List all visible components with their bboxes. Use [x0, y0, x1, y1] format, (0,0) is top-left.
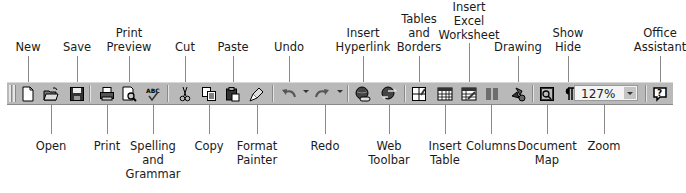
copy-icon	[201, 86, 217, 102]
leader-line	[491, 104, 492, 134]
leader-line	[604, 104, 605, 134]
spell-check-icon: ABC	[145, 86, 161, 102]
open-button[interactable]	[42, 85, 60, 102]
label-zoom: Zoom	[587, 139, 620, 153]
save-button[interactable]	[68, 85, 86, 102]
redo-dropdown-arrow[interactable]	[337, 90, 343, 93]
undo-button[interactable]	[280, 85, 298, 102]
label-office-assistant: OfficeAssistant	[634, 26, 686, 54]
document-map-icon	[539, 86, 555, 102]
insert-hyperlink-button[interactable]	[354, 85, 372, 102]
toolbar-separator	[89, 85, 91, 102]
columns-button[interactable]	[483, 85, 501, 102]
spelling-grammar-button[interactable]: ABC	[144, 85, 162, 102]
leader-line	[568, 56, 569, 84]
open-folder-icon	[43, 86, 59, 102]
undo-arrow-icon	[281, 86, 297, 102]
columns-icon	[484, 86, 500, 102]
insert-excel-button[interactable]	[460, 85, 478, 102]
label-insert-table: InsertTable	[429, 139, 462, 167]
document-map-button[interactable]	[538, 85, 556, 102]
insert-table-button[interactable]	[436, 85, 454, 102]
label-open: Open	[36, 139, 67, 153]
paste-button[interactable]	[224, 85, 242, 102]
printer-icon	[99, 86, 115, 102]
leader-line	[325, 104, 326, 134]
toolbar-separator	[645, 85, 647, 102]
toolbar-grip[interactable]	[13, 85, 16, 102]
paintbrush-icon	[249, 86, 265, 102]
label-drawing: Drawing	[494, 40, 542, 54]
leader-line	[469, 43, 470, 84]
svg-text:?: ?	[657, 88, 662, 98]
leader-line	[518, 56, 519, 84]
toolbar-separator	[532, 85, 534, 102]
leader-line	[77, 56, 78, 84]
label-document-map: DocumentMap	[517, 139, 577, 167]
toolbar-grip[interactable]	[9, 85, 12, 102]
leader-line	[129, 56, 130, 84]
new-button[interactable]	[19, 85, 37, 102]
label-print: Print	[94, 139, 120, 153]
leader-line	[185, 56, 186, 84]
print-preview-button[interactable]	[120, 85, 138, 102]
leader-line	[153, 104, 154, 134]
zoom-dropdown-arrow[interactable]	[624, 87, 636, 99]
toolbar-separator	[347, 85, 349, 102]
label-print-preview: PrintPreview	[107, 26, 152, 54]
label-redo: Redo	[311, 139, 340, 153]
drawing-shapes-icon	[510, 86, 526, 102]
undo-dropdown-arrow[interactable]	[303, 90, 309, 93]
standard-toolbar: ABC	[7, 82, 673, 105]
leader-line	[660, 56, 661, 84]
scissors-icon	[177, 86, 193, 102]
office-assistant-button[interactable]: ?	[651, 85, 669, 102]
leader-line	[209, 104, 210, 134]
table-pencil-icon	[411, 86, 427, 102]
redo-button[interactable]	[313, 85, 331, 102]
globe-arrows-icon	[381, 86, 397, 102]
label-format-painter: FormatPainter	[237, 139, 278, 167]
toolbar-separator	[404, 85, 406, 102]
leader-line	[107, 104, 108, 134]
cut-button[interactable]	[176, 85, 194, 102]
leader-line	[419, 56, 420, 84]
label-tables-borders: TablesandBorders	[397, 12, 442, 54]
spreadsheet-icon	[461, 86, 477, 102]
globe-link-icon	[355, 86, 371, 102]
drawing-button[interactable]	[509, 85, 527, 102]
zoom-value: 127%	[581, 86, 615, 102]
label-undo: Undo	[274, 40, 304, 54]
leader-line	[257, 104, 258, 134]
print-button[interactable]	[98, 85, 116, 102]
label-paste: Paste	[217, 40, 248, 54]
redo-arrow-icon	[314, 86, 330, 102]
help-question-icon: ?	[652, 86, 668, 102]
label-new: New	[15, 40, 40, 54]
leader-line	[445, 104, 446, 134]
toolbar-separator	[272, 85, 274, 102]
leader-line	[389, 104, 390, 134]
table-grid-icon	[437, 86, 453, 102]
leader-line	[289, 56, 290, 84]
leader-line	[51, 104, 52, 134]
label-cut: Cut	[175, 40, 195, 54]
format-painter-button[interactable]	[248, 85, 266, 102]
label-web-toolbar: WebToolbar	[368, 139, 409, 167]
label-insert-excel: InsertExcelWorksheet	[438, 0, 499, 42]
print-preview-icon	[121, 86, 137, 102]
clipboard-icon	[225, 86, 241, 102]
leader-line	[233, 56, 234, 84]
new-document-icon	[20, 86, 36, 102]
web-toolbar-button[interactable]	[380, 85, 398, 102]
label-show-hide: ShowHide	[552, 26, 583, 54]
zoom-dropdown[interactable]: 127%	[574, 85, 638, 101]
label-columns: Columns	[466, 139, 516, 153]
leader-line	[363, 56, 364, 84]
leader-line	[547, 104, 548, 134]
copy-button[interactable]	[200, 85, 218, 102]
toolbar-separator	[167, 85, 169, 102]
label-insert-hyperlink: InsertHyperlink	[336, 26, 391, 54]
label-save: Save	[63, 40, 91, 54]
tables-borders-button[interactable]	[410, 85, 428, 102]
